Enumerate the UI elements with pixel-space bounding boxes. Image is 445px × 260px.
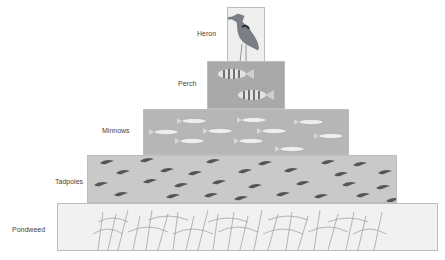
level-perch (207, 61, 285, 109)
level-label-pondweed: Pondweed (12, 226, 45, 233)
perch-fish-icon (208, 62, 285, 109)
level-tadpoles (87, 155, 397, 203)
level-label-minnows: Minnows (102, 127, 130, 134)
heron-icon (228, 8, 265, 62)
level-pondweed (57, 203, 438, 251)
level-minnows (143, 109, 349, 155)
level-label-perch: Perch (178, 80, 196, 87)
level-heron (227, 7, 265, 62)
level-label-heron: Heron (197, 30, 216, 37)
minnow-fish-icon (144, 110, 349, 155)
level-label-tadpoles: Tadpoles (55, 178, 83, 185)
pondweed-icon (58, 204, 438, 251)
tadpole-icon (88, 156, 397, 203)
